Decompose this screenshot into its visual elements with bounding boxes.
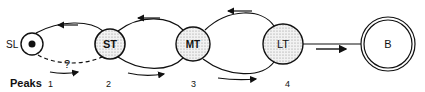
dot-icon <box>29 41 36 48</box>
link-mt-lt-lower <box>203 59 274 74</box>
peak-label-3: 3 <box>191 79 196 89</box>
node-mt: MT <box>176 27 210 61</box>
peaks-title: Peaks <box>10 77 42 89</box>
unknown-link-label: ? <box>64 58 70 70</box>
peak-label-4: 4 <box>285 79 290 89</box>
node-st: ST <box>95 29 125 59</box>
node-b-label: B <box>384 38 391 50</box>
node-st-label: ST <box>103 38 117 50</box>
memory-stage-diagram: ? SL ST MT LT B Peaks 1 2 3 4 <box>0 0 425 92</box>
node-lt: LT <box>263 24 303 64</box>
node-b: B <box>361 17 415 71</box>
node-mt-label: MT <box>186 39 200 50</box>
arrow-sl-to-st-icon <box>50 72 78 74</box>
node-sl-label: SL <box>6 39 19 50</box>
peak-label-1: 1 <box>48 79 53 89</box>
arrow-mt-to-lt-icon <box>218 78 256 80</box>
peak-label-2: 2 <box>106 79 111 89</box>
node-sl: SL <box>6 33 43 55</box>
link-st-mt-lower <box>118 57 183 68</box>
link-mt-lt-upper <box>205 13 274 30</box>
node-lt-label: LT <box>277 38 289 50</box>
link-sl-st-dashed <box>38 55 104 63</box>
arrow-st-to-mt-icon <box>128 73 164 75</box>
link-st-mt-upper <box>118 19 183 31</box>
